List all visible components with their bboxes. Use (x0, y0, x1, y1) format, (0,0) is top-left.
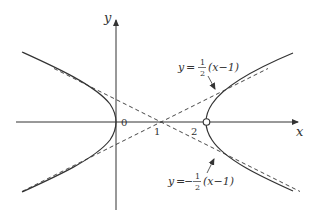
eq-pos-prefix: y (177, 61, 185, 74)
eq-neg-num: 1 (195, 172, 200, 181)
hyperbola-diagram: y x 0 1 2 y = 1 2 (x−1) y = − 1 2 (x−1) (0, 0, 323, 220)
eq-pos-num: 1 (200, 58, 205, 67)
y-axis-label: y (103, 10, 112, 25)
eq-pos-equals: = (186, 61, 195, 74)
eq-neg-suffix: (x−1) (203, 175, 234, 188)
pointer-arrow-neg (207, 159, 214, 173)
asymptote-negative-label: y = − 1 2 (x−1) (167, 159, 234, 192)
eq-neg-den: 2 (195, 183, 200, 192)
origin-label: 0 (121, 117, 127, 128)
asymptote-positive-label: y = 1 2 (x−1) (177, 58, 239, 89)
pointer-arrow-pos (208, 76, 215, 89)
x-axis-label: x (296, 124, 304, 139)
tick-label-1: 1 (154, 126, 160, 137)
eq-pos-den: 2 (200, 69, 205, 78)
asymptote-positive (22, 69, 268, 192)
tick-label-2: 2 (191, 126, 197, 137)
eq-neg-prefix: y (167, 175, 175, 188)
open-point-icon (203, 119, 210, 126)
eq-neg-sign: − (184, 175, 193, 188)
eq-pos-suffix: (x−1) (208, 61, 239, 74)
